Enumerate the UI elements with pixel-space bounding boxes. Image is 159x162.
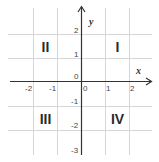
- y-tick-label: 1: [74, 50, 79, 59]
- quadrant-label-ii: II: [42, 39, 50, 55]
- y-tick-label: 2: [74, 26, 79, 35]
- x-tick-label: -1: [49, 84, 57, 93]
- y-axis-label: y: [88, 16, 94, 27]
- x-tick-label: 1: [106, 84, 111, 93]
- x-axis-label: x: [135, 65, 141, 76]
- quadrant-label-i: I: [116, 39, 120, 55]
- quadrant-labels: II I III IV: [40, 39, 125, 127]
- x-tick-label: -2: [25, 84, 33, 93]
- quadrant-label-iii: III: [40, 111, 52, 127]
- coordinate-plane: y x -2 -1 0 1 2 2 1 0 -1 -2 -3 II I III …: [0, 0, 159, 162]
- axes: [10, 7, 152, 156]
- y-tick-label: -2: [71, 121, 79, 130]
- y-tick-label: 0: [74, 72, 79, 81]
- y-tick-label: -1: [71, 97, 79, 106]
- x-tick-labels: -2 -1 0 1 2: [25, 84, 135, 93]
- y-tick-labels: 2 1 0 -1 -2 -3: [71, 26, 79, 155]
- x-tick-label: 2: [130, 84, 135, 93]
- x-tick-label: 0: [83, 84, 88, 93]
- quadrant-label-iv: IV: [111, 111, 125, 127]
- y-tick-label: -3: [71, 146, 79, 155]
